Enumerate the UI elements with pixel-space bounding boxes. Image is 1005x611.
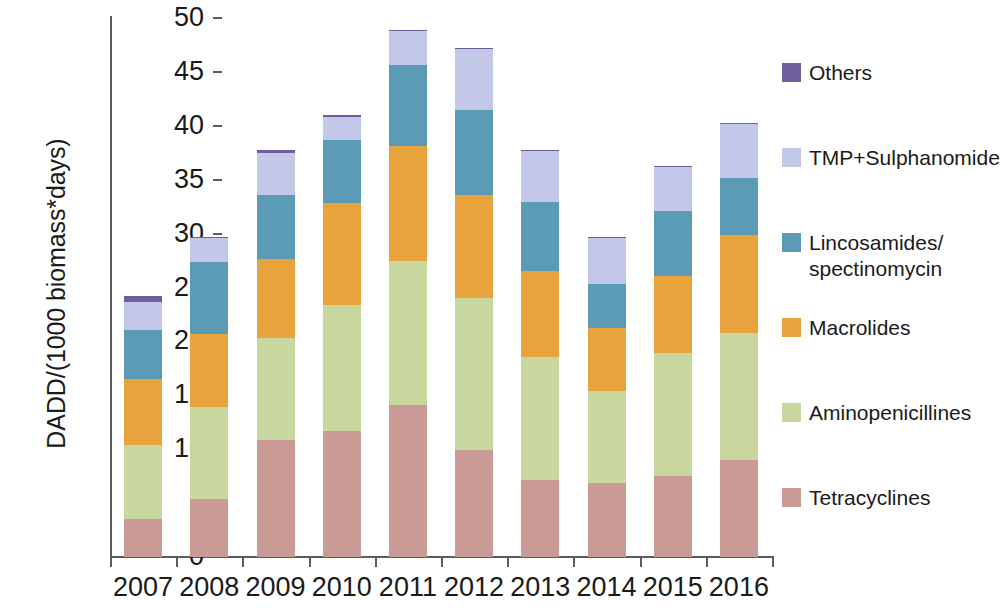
bar-segment[interactable]: [389, 146, 427, 260]
bar-segment[interactable]: [521, 357, 559, 481]
bar-segment[interactable]: [190, 238, 228, 262]
bar-segment[interactable]: [588, 238, 626, 284]
x-axis-tick-mark: [176, 556, 178, 567]
legend-label: Aminopenicillines: [809, 400, 971, 426]
bar-segment[interactable]: [257, 338, 295, 439]
bar-group[interactable]: [521, 18, 559, 557]
bar-segment[interactable]: [257, 195, 295, 260]
bar-segment[interactable]: [389, 31, 427, 65]
legend-swatch-icon: [782, 403, 801, 422]
legend-item[interactable]: Aminopenicillines: [782, 400, 971, 426]
bar-segment[interactable]: [389, 405, 427, 557]
x-axis-tick-label: 2015: [640, 571, 706, 603]
bar-segment[interactable]: [323, 431, 361, 557]
x-axis-ticks: 2007200820092010201120122013201420152016: [110, 556, 772, 611]
bar-stack: [654, 166, 692, 557]
bar-segment[interactable]: [720, 235, 758, 333]
bar-group[interactable]: [124, 18, 162, 557]
legend-item[interactable]: TMP+Sulphanomide: [782, 145, 1000, 171]
x-axis-tick-label: 2008: [176, 571, 242, 603]
x-axis-tick-mark: [573, 556, 575, 567]
bar-segment[interactable]: [720, 460, 758, 557]
legend-item[interactable]: Lincosamides/spectinomycin: [782, 230, 943, 282]
bar-segment[interactable]: [190, 407, 228, 499]
bar-segment[interactable]: [323, 140, 361, 204]
bar-segment[interactable]: [654, 476, 692, 557]
bar-segment[interactable]: [455, 49, 493, 109]
x-axis-tick-label: 2010: [309, 571, 375, 603]
bar-segment[interactable]: [455, 110, 493, 195]
bar-segment[interactable]: [588, 483, 626, 557]
legend-label: Lincosamides/spectinomycin: [809, 230, 943, 282]
bar-segment[interactable]: [124, 445, 162, 519]
x-axis-tick-label: 2011: [375, 571, 441, 603]
x-axis-tick-mark: [640, 556, 642, 567]
bar-segment[interactable]: [190, 334, 228, 407]
legend-label: Others: [809, 60, 872, 86]
legend-item[interactable]: Tetracyclines: [782, 485, 930, 511]
bar-segment[interactable]: [654, 276, 692, 354]
x-axis-tick-label: 2007: [110, 571, 176, 603]
bar-group[interactable]: [455, 18, 493, 557]
bar-segment[interactable]: [190, 499, 228, 557]
bar-segment[interactable]: [521, 202, 559, 271]
legend-swatch-icon: [782, 318, 801, 337]
bar-segment[interactable]: [323, 117, 361, 140]
bar-segment[interactable]: [455, 298, 493, 450]
bar-group[interactable]: [323, 18, 361, 557]
legend-swatch-icon: [782, 488, 801, 507]
bar-stack: [190, 237, 228, 557]
x-axis-tick-label: 2014: [573, 571, 639, 603]
bar-group[interactable]: [389, 18, 427, 557]
legend-label: Tetracyclines: [809, 485, 930, 511]
bar-group[interactable]: [588, 18, 626, 557]
bar-segment[interactable]: [124, 379, 162, 445]
bar-stack: [720, 123, 758, 557]
bar-segment[interactable]: [720, 124, 758, 178]
bar-segment[interactable]: [521, 151, 559, 203]
legend-label: TMP+Sulphanomide: [809, 145, 1000, 171]
bar-segment[interactable]: [720, 333, 758, 460]
bar-group[interactable]: [190, 18, 228, 557]
x-axis-tick-mark: [507, 556, 509, 567]
legend-item[interactable]: Others: [782, 60, 872, 86]
bar-segment[interactable]: [190, 262, 228, 334]
bars-layer: [110, 18, 772, 557]
y-axis-title: DADD/(1000 biomass*days): [42, 24, 71, 564]
bar-segment[interactable]: [455, 450, 493, 557]
x-axis-tick-mark: [441, 556, 443, 567]
bar-segment[interactable]: [521, 271, 559, 356]
bar-stack: [323, 115, 361, 557]
bar-segment[interactable]: [323, 305, 361, 431]
x-axis-tick-mark: [772, 556, 774, 567]
x-axis-tick-mark: [309, 556, 311, 567]
bar-segment[interactable]: [389, 65, 427, 146]
bar-segment[interactable]: [389, 261, 427, 405]
bar-segment[interactable]: [521, 480, 559, 557]
legend-swatch-icon: [782, 233, 801, 252]
legend-swatch-icon: [782, 63, 801, 82]
bar-segment[interactable]: [323, 203, 361, 304]
x-axis-tick-mark: [110, 556, 112, 567]
bar-segment[interactable]: [588, 328, 626, 391]
bar-segment[interactable]: [588, 391, 626, 483]
bar-segment[interactable]: [257, 153, 295, 195]
bar-group[interactable]: [720, 18, 758, 557]
bar-segment[interactable]: [654, 167, 692, 211]
bar-segment[interactable]: [124, 519, 162, 557]
bar-segment[interactable]: [455, 195, 493, 298]
bar-segment[interactable]: [720, 178, 758, 235]
bar-segment[interactable]: [654, 353, 692, 476]
bar-group[interactable]: [257, 18, 295, 557]
bar-segment[interactable]: [654, 211, 692, 276]
bar-stack: [389, 30, 427, 557]
bar-segment[interactable]: [124, 330, 162, 380]
bar-stack: [124, 296, 162, 557]
bar-segment[interactable]: [257, 259, 295, 338]
bar-group[interactable]: [654, 18, 692, 557]
bar-segment[interactable]: [124, 302, 162, 330]
legend-item[interactable]: Macrolides: [782, 315, 911, 341]
bar-segment[interactable]: [588, 284, 626, 328]
bar-stack: [588, 237, 626, 557]
bar-segment[interactable]: [257, 440, 295, 558]
